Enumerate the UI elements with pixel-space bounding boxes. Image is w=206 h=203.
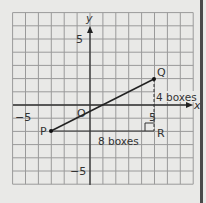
y-axis-label: y: [85, 12, 93, 25]
point-p-label: P: [40, 125, 47, 138]
point-q: [152, 77, 156, 81]
point-r-label: R: [157, 127, 165, 140]
right-angle-icon: [145, 123, 154, 131]
point-q-label: Q: [157, 66, 166, 79]
y-tick-neg5: −5: [70, 165, 86, 178]
y-axis-arrow-icon: [87, 26, 93, 33]
x-tick-neg5: −5: [15, 111, 31, 124]
page-edge-bar: [200, 0, 203, 203]
horizontal-annotation: 8 boxes: [98, 135, 139, 147]
point-p: [49, 129, 53, 133]
vertical-annotation: 4 boxes: [156, 91, 197, 103]
x-tick-5: 5: [149, 111, 156, 124]
coordinate-diagram: x y 5 −5 −5 5 O P Q R 8 boxes 4 boxes: [0, 0, 206, 203]
y-tick-5: 5: [76, 33, 83, 46]
